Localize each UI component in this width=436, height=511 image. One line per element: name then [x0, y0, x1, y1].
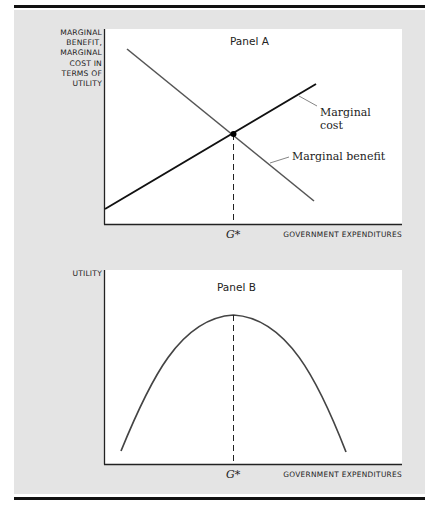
marginal-cost-label-2: cost: [320, 119, 343, 132]
equilibrium-point: [231, 131, 237, 137]
panel-b: Panel B G* GOVERNMENT EXPENDITURES: [104, 270, 402, 481]
figure-svg: Panel A Marginal cost Marginal benefit G…: [0, 0, 436, 511]
panel-a: Panel A Marginal cost Marginal benefit G…: [104, 29, 402, 241]
marginal-benefit-label: Marginal benefit: [292, 150, 386, 163]
panel-a-gstar-label: G*: [226, 228, 241, 241]
panel-b-gstar-label: G*: [226, 468, 241, 481]
panel-a-title: Panel A: [230, 35, 270, 47]
bottom-rule: [14, 497, 425, 500]
panel-b-title: Panel B: [217, 281, 256, 293]
marginal-cost-label-1: Marginal: [320, 106, 371, 119]
panel-b-xlabel: GOVERNMENT EXPENDITURES: [283, 470, 402, 479]
panel-a-xlabel: GOVERNMENT EXPENDITURES: [283, 230, 402, 239]
panel-b-plot-area: [105, 270, 402, 464]
panel-a-plot-area: [105, 29, 402, 224]
